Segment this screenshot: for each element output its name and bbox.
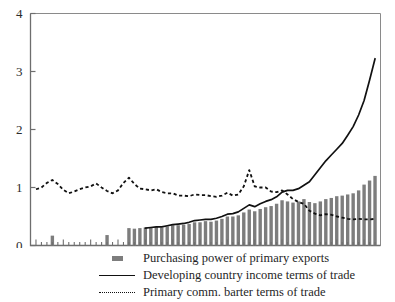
svg-text:2: 2 (16, 122, 23, 137)
chart-figure: 01234 35404550556065707580859095 Purchas… (0, 0, 395, 302)
chart-plot-area: 01234 35404550556065707580859095 (0, 0, 395, 248)
legend-label-barter-terms: Primary comm. barter terms of trade (138, 285, 326, 300)
legend-label-income-terms: Developing country income terms of trade (138, 268, 355, 283)
y-axis-ticks: 01234 (16, 6, 36, 248)
legend-item-income-terms: Developing country income terms of trade (96, 267, 395, 284)
solid-line-icon (96, 267, 138, 284)
x-axis-ticks: 35404550556065707580859095 (29, 240, 375, 249)
svg-text:0: 0 (16, 238, 23, 248)
legend-item-barter-terms: Primary comm. barter terms of trade (96, 284, 395, 301)
svg-text:4: 4 (16, 6, 23, 21)
bar-series-purchasing-power (51, 176, 377, 246)
legend-label-purchasing-power: Purchasing power of primary exports (138, 251, 329, 266)
plot-frame (31, 14, 381, 246)
chart-legend: Purchasing power of primary exports Deve… (96, 250, 395, 301)
svg-text:1: 1 (16, 180, 23, 195)
bar-swatch-icon (96, 250, 138, 267)
legend-item-purchasing-power: Purchasing power of primary exports (96, 250, 395, 267)
dotted-line-icon (96, 284, 138, 301)
svg-text:3: 3 (16, 64, 23, 79)
